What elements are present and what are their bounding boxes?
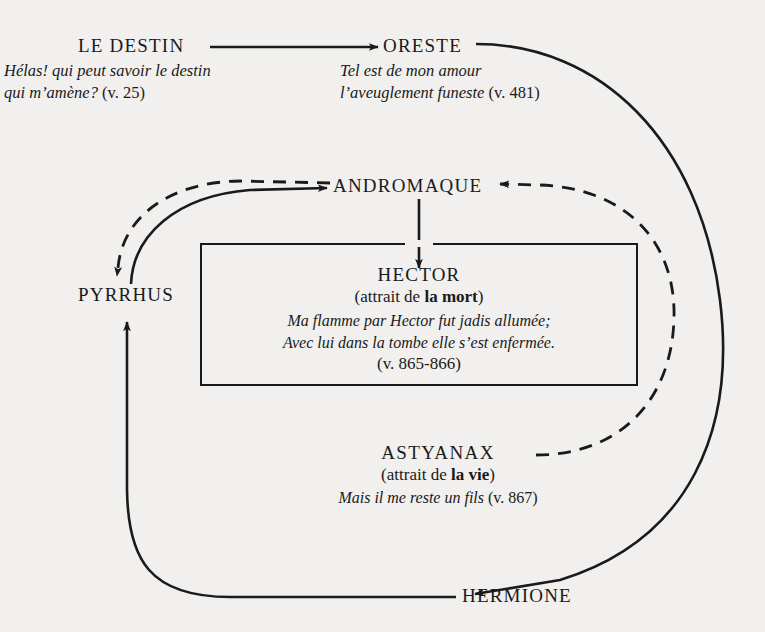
quote-astyanax: Mais il me reste un fils (v. 867) — [268, 487, 608, 508]
hector-box-arrow-gap — [405, 240, 433, 247]
node-astyanax[interactable]: ASTYANAX — [268, 443, 608, 463]
quote-astyanax-ref: (v. 867) — [484, 489, 538, 506]
node-hector[interactable]: HECTOR — [200, 265, 638, 285]
hector-box-content: HECTOR (attrait de la mort) Ma flamme pa… — [200, 265, 638, 377]
node-le-destin[interactable]: LE DESTIN — [78, 36, 184, 56]
quote-oreste: Tel est de mon amour l’aveuglement funes… — [340, 60, 540, 104]
node-hermione[interactable]: HERMIONE — [462, 586, 572, 606]
quote-le-destin: Hélas! qui peut savoir le destin qui m’a… — [4, 60, 211, 104]
diagram-canvas: LE DESTIN Hélas! qui peut savoir le dest… — [0, 0, 765, 632]
node-andromaque[interactable]: ANDROMAQUE — [333, 176, 482, 196]
astyanax-subtitle: (attrait de la vie) — [268, 464, 608, 486]
node-oreste[interactable]: ORESTE — [383, 36, 462, 56]
quote-hector-line1: Ma flamme par Hector fut jadis allumée; — [200, 310, 638, 332]
quote-le-destin-line1: Hélas! qui peut savoir le destin — [4, 60, 211, 82]
quote-oreste-ref: (v. 481) — [484, 83, 539, 102]
quote-le-destin-line2: qui m’amène? (v. 25) — [4, 82, 211, 104]
hector-subtitle: (attrait de la mort) — [200, 286, 638, 308]
quote-hector-line2: Avec lui dans la tombe elle s’est enferm… — [200, 332, 638, 354]
quote-hector-ref: (v. 865-866) — [200, 353, 638, 375]
quote-oreste-line1: Tel est de mon amour — [340, 60, 540, 82]
quote-oreste-line2: l’aveuglement funeste (v. 481) — [340, 82, 540, 104]
node-pyrrhus[interactable]: PYRRHUS — [78, 285, 174, 305]
quote-le-destin-ref: (v. 25) — [98, 83, 145, 102]
hector-subtitle-strong: la mort — [424, 287, 477, 306]
astyanax-block: ASTYANAX (attrait de la vie) Mais il me … — [268, 443, 608, 508]
astyanax-subtitle-strong: la vie — [451, 465, 489, 484]
